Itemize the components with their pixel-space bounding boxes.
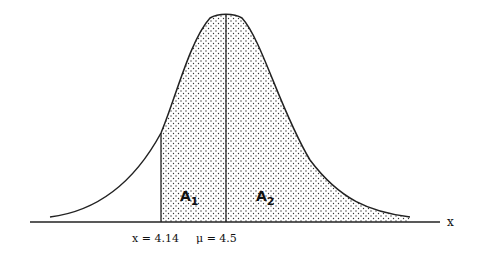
x-value-label: x = 4.14 — [132, 232, 179, 245]
mean-label: μ = 4.5 — [196, 232, 237, 245]
region-a1-label: A1 — [180, 188, 199, 208]
region-a2-label: A2 — [256, 188, 275, 208]
normal-curve-diagram — [0, 0, 479, 263]
axis-label-x: x — [447, 215, 454, 229]
